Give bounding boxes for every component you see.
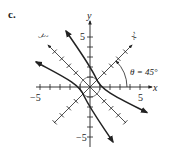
angle-label: θ = 45° — [130, 67, 158, 77]
x-min-label: −5 — [30, 92, 41, 103]
y-max-label: 5 — [80, 31, 85, 42]
y-axis-label: y — [86, 10, 92, 21]
diagram-canvas: c. x −5 5 y 5 −5 — [0, 0, 172, 152]
x-axis-label: x — [152, 82, 158, 93]
x-prime-label: x′ — [128, 29, 141, 42]
y-axis — [87, 21, 93, 147]
y-prime-label: y′ — [38, 30, 51, 43]
rotated-hyperbola-figure: c. x −5 5 y 5 −5 — [0, 0, 172, 152]
panel-label: c. — [8, 8, 16, 20]
angle-arc — [116, 61, 127, 87]
y-min-label: −5 — [76, 132, 87, 143]
x-max-label: 5 — [138, 92, 143, 103]
x-axis — [36, 84, 152, 90]
